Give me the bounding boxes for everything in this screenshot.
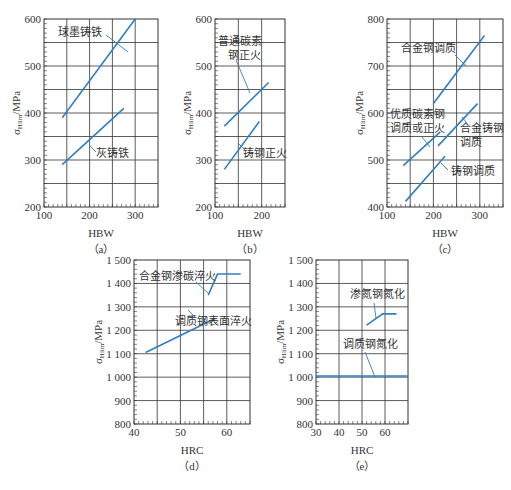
y-tick-label: 500 [368, 154, 385, 166]
minor-ticks [134, 260, 250, 424]
series-annotation: 灰铸铁 [96, 146, 129, 160]
y-tick-label: 900 [297, 395, 314, 407]
y-tick-label: 400 [368, 201, 385, 213]
y-tick-label: 1 400 [106, 277, 131, 289]
x-axis-title: HRC [181, 444, 204, 456]
y-tick-label: 200 [25, 201, 42, 213]
y-tick-label: 1 100 [106, 348, 131, 360]
x-tick-label: 50 [357, 426, 369, 438]
y-tick-label: 800 [368, 13, 385, 25]
y-tick-label: 200 [196, 201, 213, 213]
y-axis-title: σHlim/MPa [274, 320, 288, 364]
y-tick-label: 1 200 [106, 324, 131, 336]
y-axis-title: σHlim/MPa [92, 320, 106, 364]
series-annotation: 优质碳素钢 [390, 107, 445, 121]
x-tick-label: 300 [472, 209, 489, 221]
y-tick-label: 1 200 [288, 324, 313, 336]
x-axis-title: HBW [237, 227, 263, 239]
gridlines [134, 260, 250, 424]
gridlines [44, 19, 158, 207]
y-tick-label: 1 100 [288, 348, 313, 360]
y-tick-label: 1 300 [288, 301, 313, 313]
chart-panel-c: 100200300400500600700800HBWσHlim/MPa（c）合… [353, 13, 504, 255]
x-axis-title: HBW [88, 227, 114, 239]
series-line [224, 121, 259, 169]
y-tick-label: 300 [25, 154, 42, 166]
y-tick-label: 700 [368, 60, 385, 72]
series-annotation: 铸钢正火 [243, 146, 287, 160]
x-axis-title: HBW [432, 227, 458, 239]
x-tick-label: 300 [127, 209, 144, 221]
y-tick-label: 600 [196, 13, 213, 25]
y-tick-label: 1 000 [106, 371, 131, 383]
y-tick-label: 400 [196, 107, 213, 119]
y-tick-label: 1 000 [288, 371, 313, 383]
x-tick-label: 50 [175, 426, 187, 438]
leader-line [89, 145, 96, 152]
y-tick-label: 800 [115, 418, 132, 430]
panel-label: （c） [432, 243, 459, 255]
chart-panel-e: 304050608009001 0001 1001 2001 3001 4001… [274, 254, 408, 472]
y-tick-label: 600 [25, 13, 42, 25]
x-axis-title: HRC [351, 444, 374, 456]
series-annotation: 合金钢调质 [401, 41, 456, 55]
y-tick-label: 300 [196, 154, 213, 166]
y-axis-title: σHlim/MPa [353, 91, 367, 135]
x-tick-label: 200 [425, 209, 442, 221]
leader-line [374, 303, 376, 318]
series-annotation: 调质钢表面淬火 [175, 314, 252, 328]
y-tick-label: 1 500 [106, 254, 131, 266]
chart-panel-d: 4050608009001 0001 1001 2001 3001 4001 5… [92, 254, 252, 472]
y-tick-label: 500 [25, 60, 42, 72]
y-tick-label: 1 500 [288, 254, 313, 266]
panel-label: （d） [178, 460, 206, 472]
leader-line [365, 352, 375, 377]
y-tick-label: 900 [115, 395, 132, 407]
series-annotation: 合金钢渗碳淬火 [139, 269, 216, 283]
series-annotation: 调质或正火 [390, 122, 445, 135]
x-tick-label: 40 [334, 426, 346, 438]
leader-line [441, 163, 448, 170]
y-tick-label: 600 [368, 107, 385, 119]
series-annotation: 钢正火 [228, 49, 261, 62]
x-tick-label: 200 [253, 209, 270, 221]
y-axis-title: σHlim/MPa [181, 91, 195, 135]
x-tick-label: 60 [221, 426, 233, 438]
x-tick-label: 200 [81, 209, 98, 221]
leader-line [106, 35, 128, 52]
y-tick-label: 1 300 [106, 301, 131, 313]
y-tick-label: 400 [25, 107, 42, 119]
series-annotation: 铸钢调质 [451, 164, 495, 178]
chart-canvas: 100200300200300400500600HBWσHlim/MPa（a）球… [0, 0, 511, 490]
panel-label: （e） [349, 460, 376, 472]
series-annotation: 球墨铸铁 [58, 25, 102, 39]
series-annotation: 调质 [460, 136, 482, 149]
series-line [406, 156, 445, 201]
plot-frame [134, 260, 250, 424]
y-axis-title: σHlim/MPa [10, 91, 24, 135]
y-tick-label: 500 [196, 60, 213, 72]
y-tick-label: 1 400 [288, 277, 313, 289]
series-annotation: 普通碳素 [218, 34, 262, 48]
series-annotation: 渗氮钢氮化 [350, 287, 405, 301]
chart-panel-a: 100200300200300400500600HBWσHlim/MPa（a）球… [10, 13, 158, 255]
series-line [367, 314, 397, 325]
series-annotation: 调质钢氮化 [343, 337, 398, 351]
y-tick-label: 800 [297, 418, 314, 430]
x-tick-label: 60 [380, 426, 392, 438]
chart-panel-b: 100200200300400500600HBWσHlim/MPa（b）普通碳素… [181, 13, 287, 255]
panel-label: （b） [236, 243, 264, 255]
